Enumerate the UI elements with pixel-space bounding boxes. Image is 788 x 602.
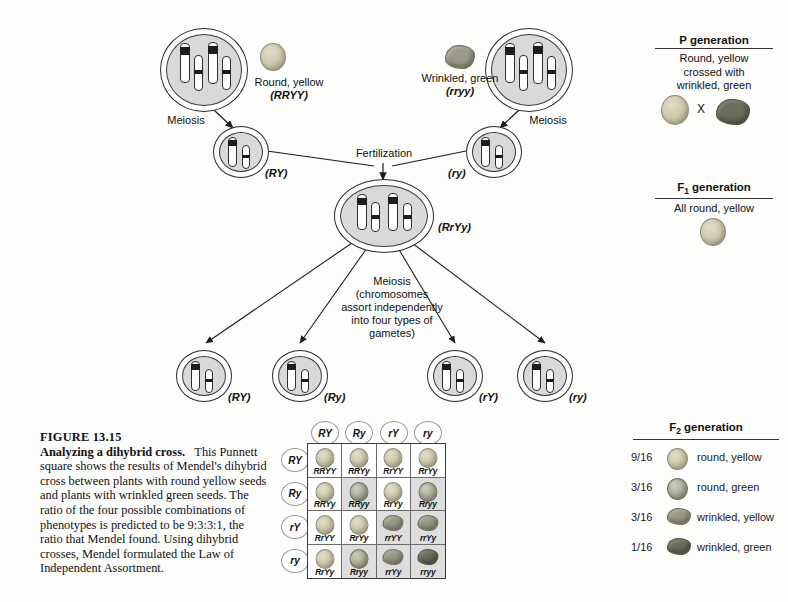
p-generation-line-3: wrinkled, green — [651, 79, 777, 93]
punnett-cell-genotype: RrYy — [411, 466, 445, 476]
fertilization-label: Fertilization — [340, 147, 428, 160]
chromosome — [388, 193, 398, 231]
punnett-square[interactable]: RRYYRRYyRrYYRrYyRRYyRRyyRrYyRryyRrYYRrYy… — [307, 443, 446, 579]
seed-round-yellow — [315, 549, 334, 569]
f1-gamete-genotype-ry4: (ry) — [569, 391, 587, 403]
chromosome — [191, 361, 200, 391]
meiosis-note-line: into four types of — [322, 314, 462, 327]
chromosome — [371, 202, 380, 232]
punnett-row-header[interactable]: RY — [281, 448, 309, 472]
p-generation-rule — [655, 48, 773, 49]
punnett-row-header[interactable]: Ry — [281, 482, 309, 506]
f2-seed-icon — [667, 448, 688, 470]
gamete-left-genotype: (RY) — [265, 167, 287, 179]
meiosis-note-line: gametes) — [322, 327, 462, 340]
cytoplasm — [433, 356, 477, 396]
punnett-col-header[interactable]: Ry — [345, 421, 373, 445]
punnett-cell-genotype: rryy — [411, 567, 445, 577]
seed-wrinkled-yellow — [417, 515, 438, 531]
meiosis-assortment-note: Meiosis (chromosomes assort independentl… — [322, 275, 462, 340]
punnett-cell[interactable]: RrYy — [308, 545, 342, 579]
f2-seed-icon — [667, 478, 688, 500]
f1-gamete-cell-ry — [176, 350, 232, 402]
f1-gamete-cell-ry3 — [427, 350, 483, 402]
chromosome — [495, 145, 503, 169]
figure-number: FIGURE 13.15 — [40, 430, 122, 444]
chromosome — [533, 42, 543, 84]
punnett-row-headers: RYRyrYry — [281, 443, 307, 577]
chromosome — [403, 203, 412, 231]
punnett-cell[interactable]: RrYy — [411, 444, 445, 478]
p-panel-seed-round-yellow — [661, 95, 689, 125]
punnett-cell-genotype: RrYY — [377, 466, 410, 476]
f2-generation-title: F2 generation — [631, 421, 781, 436]
punnett-cell[interactable]: rrYy — [411, 511, 445, 545]
punnett-col-header[interactable]: rY — [380, 421, 408, 445]
f2-generation-rows: 9/16round, yellow3/16round, green3/16wri… — [631, 448, 783, 568]
punnett-cell-genotype: RRYy — [308, 499, 341, 509]
f2-phenotype: wrinkled, yellow — [697, 511, 774, 523]
punnett-cell[interactable]: Rryy — [411, 478, 445, 512]
punnett-cell[interactable]: RRYY — [308, 444, 342, 478]
chromosome — [519, 55, 528, 91]
f1-generation-subtitle: All round, yellow — [651, 202, 777, 216]
parent-right-genotype: (rryy) — [413, 85, 507, 97]
f2-fraction: 3/16 — [631, 511, 652, 523]
chromosome — [301, 369, 309, 393]
p-panel-seed-wrinkled-green — [716, 99, 750, 125]
punnett-cell[interactable]: Rryy — [342, 545, 376, 579]
punnett-column-headers: RYRyrYry — [307, 421, 444, 443]
punnett-row-header[interactable]: rY — [281, 515, 309, 539]
punnett-cell-genotype: RrYy — [342, 533, 375, 543]
punnett-cell[interactable]: rryy — [411, 545, 445, 579]
punnett-cell[interactable]: rrYY — [377, 511, 411, 545]
meiosis-note-line: assort independently — [322, 301, 462, 314]
punnett-cell[interactable]: RrYY — [377, 444, 411, 478]
punnett-cell[interactable]: RRYy — [342, 444, 376, 478]
f2-fraction: 3/16 — [631, 481, 652, 493]
punnett-cell-genotype: RrYy — [308, 567, 341, 577]
chromosome — [228, 137, 237, 167]
f2-generation-panel: F2 generation — [631, 421, 781, 440]
punnett-col-header[interactable]: ry — [414, 421, 442, 445]
punnett-col-header[interactable]: RY — [311, 421, 339, 445]
meiosis-note-line: Meiosis — [322, 275, 462, 288]
seed-wrinkled-green-parent — [445, 45, 475, 69]
punnett-cell-genotype: RRyy — [342, 499, 375, 509]
f2-phenotype: round, green — [697, 481, 759, 493]
chromosome — [208, 42, 218, 84]
punnett-row-header[interactable]: ry — [281, 549, 309, 573]
seed-round-yellow — [667, 448, 688, 470]
punnett-cell[interactable]: RrYy — [377, 478, 411, 512]
cytoplasm — [182, 356, 226, 396]
f1-gamete-genotype-ry: (RY) — [228, 391, 250, 403]
punnett-cell[interactable]: RRyy — [342, 478, 376, 512]
chromosome — [205, 369, 213, 393]
punnett-cell[interactable]: RRYy — [308, 478, 342, 512]
zygote-cytoplasm — [340, 185, 428, 247]
punnett-cell-genotype: Rryy — [411, 499, 445, 509]
punnett-cell[interactable]: rrYy — [377, 545, 411, 579]
f2-fraction: 9/16 — [631, 451, 652, 463]
f1-gamete-genotype-ry3: (rY) — [479, 391, 498, 403]
punnett-cell-genotype: RrYy — [377, 499, 410, 509]
parent-cell-left — [160, 28, 248, 112]
cytoplasm — [278, 356, 322, 396]
punnett-cell[interactable]: RrYy — [342, 511, 376, 545]
punnett-cell-genotype: RRYy — [342, 466, 375, 476]
punnett-cell-genotype: Rryy — [342, 567, 375, 577]
seed-wrinkled-yellow — [383, 549, 404, 565]
chromosome — [180, 43, 190, 83]
punnett-cell[interactable]: RrYY — [308, 511, 342, 545]
f2-seed-icon — [667, 508, 691, 525]
chromosome — [222, 56, 231, 90]
f2-title-suffix: generation — [681, 421, 743, 433]
p-generation-title: P generation — [651, 34, 777, 46]
f1-gamete-genotype-ry2: (Ry) — [324, 391, 345, 403]
seed-wrinkled-yellow — [667, 508, 691, 525]
meiosis-note-line: (chromosomes — [322, 288, 462, 301]
p-panel-cross-symbol: X — [697, 102, 705, 116]
punnett-cell-genotype: RrYY — [308, 533, 341, 543]
zygote-cell — [334, 179, 434, 253]
parent-right-phenotype: Wrinkled, green — [413, 72, 507, 85]
